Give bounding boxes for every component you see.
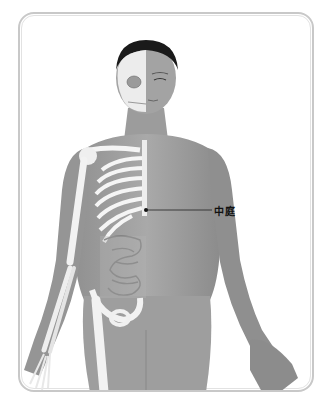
anatomy-illustration: [0, 0, 333, 412]
head: [116, 40, 178, 114]
body-silhouette: [24, 108, 298, 392]
acupoint-label: 中庭: [214, 203, 236, 218]
